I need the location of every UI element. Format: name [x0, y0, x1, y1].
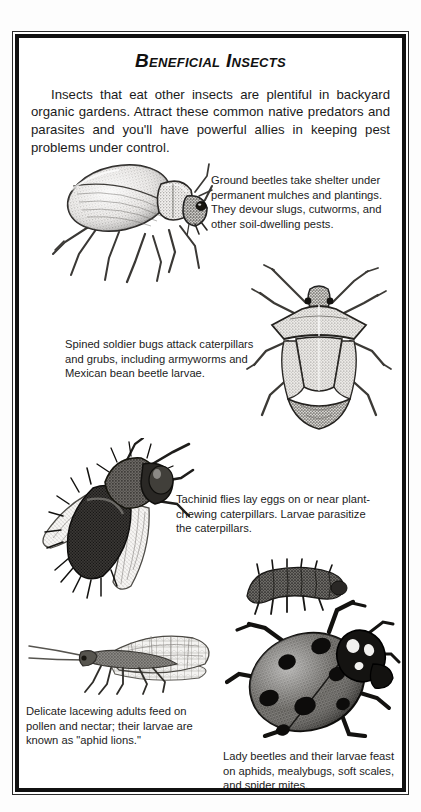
ground-beetle-illustration	[49, 150, 214, 285]
spined-soldier-bug-illustration	[244, 253, 394, 433]
lady-beetle-illustration	[225, 558, 401, 738]
caption-tachinid-fly: Tachinid flies lay eggs on or near plant…	[176, 492, 376, 536]
tachinid-fly-illustration	[31, 438, 196, 603]
caption-spined-soldier-bug: Spined soldier bugs attack caterpillars …	[65, 337, 255, 381]
caption-lady-beetle: Lady beetles and their larvae feast on a…	[223, 749, 398, 788]
caption-lacewing: Delicate lacewing adults feed on pollen …	[26, 704, 206, 748]
lady-beetle-larva-illustration	[247, 559, 347, 614]
page-content: Beneficial Insects Insects that eat othe…	[19, 38, 402, 788]
lacewing-illustration	[27, 608, 222, 698]
page-title: Beneficial Insects	[19, 51, 402, 72]
caption-ground-beetle: Ground beetles take shelter under perman…	[211, 173, 391, 231]
intro-paragraph: Insects that eat other insects are plent…	[31, 86, 390, 156]
